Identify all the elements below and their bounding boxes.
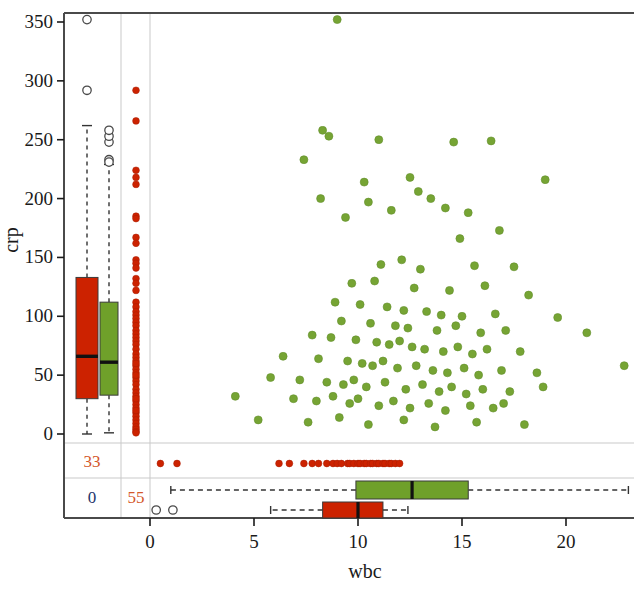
scatter-point [360,178,368,186]
scatter-point [510,263,518,271]
scatter-point [339,381,347,389]
scatter-point [473,418,481,426]
scatter-point [468,350,476,358]
scatter-point [477,329,485,337]
scatter-point [337,317,345,325]
x-tick-label-15: 15 [453,531,472,552]
scatter-point [402,385,410,393]
scatter-point [410,284,418,292]
scatter-point [391,322,399,330]
scatter-point [400,306,408,314]
y-axis-title: crp [0,227,23,253]
scatter-point [323,378,331,386]
scatter-point [441,204,449,212]
scatter-point [356,301,364,309]
crp-strip-point [133,407,140,414]
crp-strip-point [133,167,140,174]
wbc-strip-point [301,460,308,467]
scatter-point [583,329,591,337]
scatter-point [456,235,464,243]
crp-strip-point [133,287,140,294]
y-tick-label-350: 350 [25,11,54,32]
crp-strip-point [133,280,140,287]
scatter-point [369,362,377,370]
boxplot-outlier [105,126,113,134]
scatter-point [354,395,362,403]
scatter-point [408,343,416,351]
scatter-point [375,402,383,410]
scatter-point [464,209,472,217]
box [323,502,383,518]
scatter-point [352,336,360,344]
scatter-point [387,206,395,214]
scatter-point [304,418,312,426]
wbc-strip-point [315,460,322,467]
scatter-point [279,352,287,360]
scatter-point [446,286,454,294]
crp-strip-point [133,395,140,402]
scatter-point [466,402,474,410]
scatter-point [525,291,533,299]
crp-strip-point [133,174,140,181]
scatter-point [400,416,408,424]
scatter-point [371,277,379,285]
scatter-point [325,132,333,140]
scatter-point [254,416,262,424]
scatter-point [385,341,393,349]
scatter-point [443,369,451,377]
scatter-point [308,331,316,339]
scatter-point [479,385,487,393]
scatter-point [381,378,389,386]
scatter-point [462,390,470,398]
scatter-point [267,374,275,382]
scatter-point [533,369,541,377]
scatter-point [450,138,458,146]
boxplot-outlier [83,86,91,94]
scatter-point [290,395,298,403]
scatter-point [406,173,414,181]
scatter-point [350,376,358,384]
scatter-point [433,326,441,334]
y-tick-label-150: 150 [25,246,54,267]
scatter-point [500,399,508,407]
scatter-point [296,376,304,384]
x-tick-label-10: 10 [349,531,368,552]
scatter-point [344,357,352,365]
scatter-point [454,343,462,351]
scatter-point [383,303,391,311]
wbc-strip-point [286,460,293,467]
scatter-point [483,345,491,353]
crp-missing-count-red: 33 [84,452,101,471]
x-axis-title: wbc [348,560,381,582]
scatter-point [491,310,499,318]
scatter-point [441,407,449,415]
scatter-point [335,414,343,422]
scatter-point [329,392,337,400]
scatter-point [317,195,325,203]
y-tick-label-100: 100 [25,305,54,326]
wbc-strip-point [396,460,403,467]
wbc-strip-point [174,460,181,467]
crp-strip-point [133,87,140,94]
scatter-point [516,348,524,356]
scatter-point [495,226,503,234]
scatter-point [481,282,489,290]
scatter-point [506,388,514,396]
scatter-point [498,366,506,374]
scatter-point [429,366,437,374]
scatter-point [412,362,420,370]
x-tick-label-0: 0 [145,531,155,552]
scatter-point [487,137,495,145]
scatter-point [394,364,402,372]
y-tick-label-0: 0 [44,423,54,444]
scatter-point [471,262,479,270]
scatter-point [423,308,431,316]
scatter-point [416,265,424,273]
scatter-point [437,311,445,319]
scatter-point [396,337,404,345]
scatter-point [327,334,335,342]
crp-strip-point [133,118,140,125]
y-tick-label-300: 300 [25,70,54,91]
chart-canvas: 050100150200250300350crp05101520wbc33055 [0,0,636,593]
scatter-point [362,383,370,391]
